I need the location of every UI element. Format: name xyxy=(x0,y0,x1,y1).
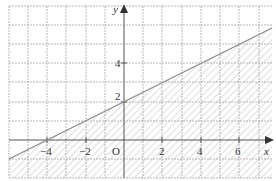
y-tick-label: 4 xyxy=(115,57,121,69)
x-tick-label: −4 xyxy=(40,145,52,157)
inequality-graph: y x O −4 −2 2 4 6 2 4 xyxy=(0,0,276,181)
y-tick-label: 2 xyxy=(115,90,121,102)
x-tick-label: 4 xyxy=(197,145,203,157)
x-tick-label: 6 xyxy=(235,145,241,157)
x-tick-label: −2 xyxy=(79,145,91,157)
origin-label: O xyxy=(112,145,120,157)
y-axis-label: y xyxy=(112,3,118,15)
x-tick-label: 2 xyxy=(159,145,165,157)
x-axis-label: x xyxy=(263,145,269,157)
y-axis-arrow-icon xyxy=(120,4,128,13)
